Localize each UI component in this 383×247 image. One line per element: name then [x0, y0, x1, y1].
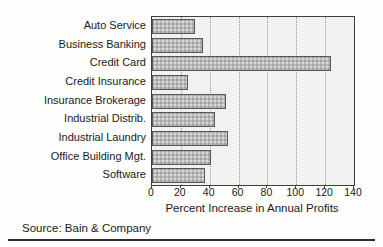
bar-industrial-laundry	[152, 131, 228, 146]
gridline-x-60	[239, 17, 240, 185]
gridline-x-80	[267, 17, 268, 185]
bottom-rule-divider	[8, 239, 375, 241]
bar-auto-service	[152, 19, 195, 34]
bar-software	[152, 168, 205, 183]
bar-insurance-brokerage	[152, 94, 226, 109]
bar-office-building-mgt	[152, 150, 211, 165]
category-label: Business Banking	[0, 38, 146, 51]
gridline-x-100	[296, 17, 297, 185]
source-note: Source: Bain & Company	[22, 222, 151, 234]
category-label: Industrial Laundry	[0, 131, 146, 144]
category-label: Credit Card	[0, 56, 146, 69]
gridline-x-120	[325, 17, 326, 185]
plot-area	[151, 16, 355, 186]
bar-chart-figure: Auto ServiceBusiness BankingCredit CardC…	[0, 0, 383, 247]
bar-business-banking	[152, 38, 203, 53]
x-axis-title: Percent Increase in Annual Profits	[151, 202, 353, 214]
x-tick-label: 140	[336, 186, 370, 198]
category-label: Credit Insurance	[0, 75, 146, 88]
category-label: Industrial Distrib.	[0, 112, 146, 125]
category-label: Auto Service	[0, 19, 146, 32]
bar-industrial-distrib	[152, 112, 215, 127]
category-label: Insurance Brokerage	[0, 94, 146, 107]
bar-credit-insurance	[152, 75, 188, 90]
category-label: Office Building Mgt.	[0, 150, 146, 163]
category-label: Software	[0, 168, 146, 181]
bar-credit-card	[152, 56, 331, 71]
